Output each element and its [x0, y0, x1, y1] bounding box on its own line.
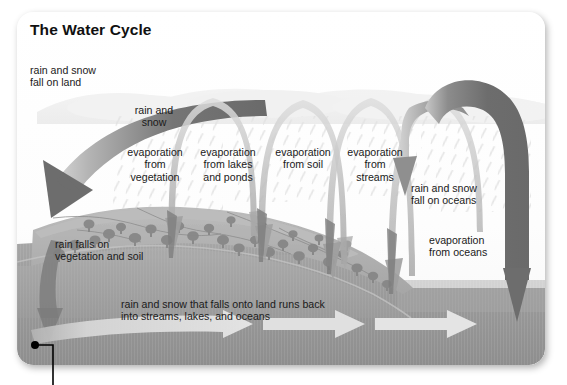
page-title: The Water Cycle [30, 21, 152, 39]
screenshot-canvas: The Water Cycle rain and snow fall on la… [0, 0, 567, 385]
label-runoff: rain and snow that falls onto land runs … [121, 298, 325, 323]
label-evaporation-soil: evaporation from soil [269, 146, 337, 171]
label-rain-snow: rain and snow [118, 104, 190, 129]
label-rain-snow-land: rain and snow fall on land [30, 64, 96, 89]
label-evaporation-oceans: evaporation from oceans [429, 234, 487, 259]
water-cycle-card: The Water Cycle rain and snow fall on la… [17, 12, 545, 365]
label-rain-vegetation-soil: rain falls on vegetation and soil [55, 238, 143, 263]
label-evaporation-streams: evaporation from streams [341, 146, 409, 183]
label-evaporation-vegetation: evaporation from vegetation [121, 146, 189, 183]
callout-pointer [0, 320, 120, 385]
label-evaporation-lakes: evaporation from lakes and ponds [193, 146, 263, 183]
label-rain-snow-oceans: rain and snow fall on oceans [411, 182, 477, 207]
